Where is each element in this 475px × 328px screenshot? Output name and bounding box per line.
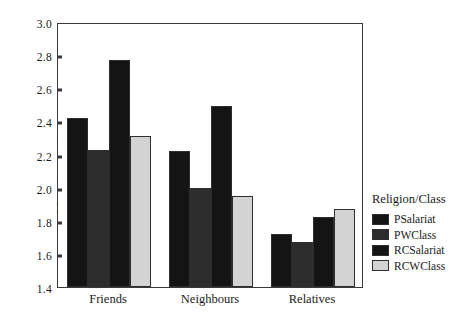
bar-friends-rcwclass	[130, 136, 151, 287]
y-axis-tick-label: 1.6	[37, 250, 52, 262]
y-axis-tick-mark	[58, 221, 62, 224]
y-axis-tick-label: 2.8	[37, 51, 52, 63]
y-axis-tick-label: 2.4	[37, 117, 52, 129]
bar-friends-rcsalariat	[109, 60, 130, 287]
bar-friends-pwclass	[88, 150, 109, 287]
bar-neighbours-rcwclass	[232, 196, 253, 287]
plot-area: 1.41.61.82.02.22.42.62.83.0	[57, 23, 363, 288]
legend-item-pwclass: PWClass	[372, 229, 475, 241]
legend-swatch-icon	[372, 245, 389, 256]
x-axis-tick-label: Relatives	[289, 292, 336, 307]
y-axis-tick-mark	[58, 89, 62, 92]
legend-item-label: PWClass	[394, 229, 436, 241]
bars-layer	[58, 24, 362, 287]
x-axis-tick-label: Friends	[89, 292, 127, 307]
y-axis-tick-label: 2.2	[37, 151, 52, 163]
legend-item-psalariat: PSalariat	[372, 213, 475, 225]
y-axis-tick-label: 2.6	[37, 84, 52, 96]
legend: Religion/Class PSalariatPWClassRCSalaria…	[372, 192, 475, 275]
bar-relatives-psalariat	[271, 234, 292, 287]
legend-items: PSalariatPWClassRCSalariatRCWClass	[372, 213, 475, 272]
y-axis-tick-mark	[58, 122, 62, 125]
legend-item-label: RCSalariat	[394, 244, 444, 256]
bar-relatives-rcwclass	[334, 209, 355, 287]
legend-swatch-icon	[372, 214, 389, 225]
legend-title: Religion/Class	[372, 192, 475, 207]
bar-friends-psalariat	[67, 118, 88, 287]
y-axis-tick-label: 1.8	[37, 217, 52, 229]
bar-relatives-rcsalariat	[313, 217, 334, 287]
y-axis-tick-label: 2.0	[37, 184, 52, 196]
legend-swatch-icon	[372, 229, 389, 240]
bar-relatives-pwclass	[292, 242, 313, 287]
bar-chart: Mean integration score 1.41.61.82.02.22.…	[0, 0, 475, 328]
y-axis-tick-label: 3.0	[37, 18, 52, 30]
legend-item-rcsalariat: RCSalariat	[372, 244, 475, 256]
y-axis-tick-mark	[58, 254, 62, 257]
bar-neighbours-psalariat	[169, 151, 190, 287]
bar-neighbours-pwclass	[190, 188, 211, 287]
y-axis-tick-mark	[58, 155, 62, 158]
legend-item-rcwclass: RCWClass	[372, 260, 475, 272]
legend-item-label: PSalariat	[394, 213, 436, 225]
y-axis-label-container: Mean integration score	[0, 23, 26, 288]
x-axis-tick-label: Neighbours	[181, 292, 239, 307]
legend-swatch-icon	[372, 260, 389, 271]
bar-neighbours-rcsalariat	[211, 106, 232, 287]
y-axis-tick-mark	[58, 56, 62, 59]
y-axis-tick-label: 1.4	[37, 283, 52, 295]
y-axis-tick-mark	[58, 188, 62, 191]
legend-item-label: RCWClass	[394, 260, 445, 272]
